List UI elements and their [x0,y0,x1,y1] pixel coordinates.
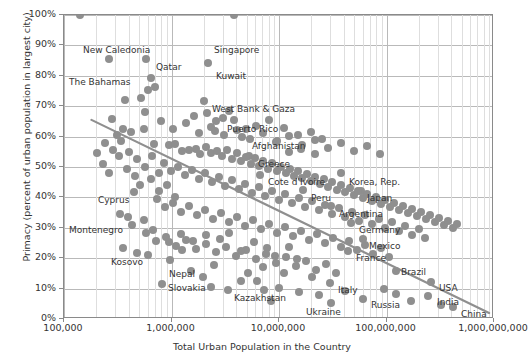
data-label-slovakia: Slovakia [168,283,206,293]
data-label-kuwait: Kuwait [216,71,246,81]
y-tick-mark [59,288,63,289]
data-label-puerto-rico: Puerto Rico [227,124,278,134]
data-label-germany: Germany [359,225,400,235]
x-tick-mark [493,318,494,322]
y-tick-mark [59,14,63,15]
data-label-russia: Russia [371,300,400,310]
y-tick-mark [59,105,63,106]
x-tick-label: 1,000,000 [146,322,194,333]
y-axis-title: Primacy (percent of urban population in … [21,62,32,262]
data-label-cote-d-ivoire: Cote d'Ivoire [268,177,325,187]
data-label-japan: Japan [367,193,392,203]
x-tick-label: 10,000,000 [251,322,305,333]
data-label-singapore: Singapore [214,45,259,55]
y-tick-mark [59,136,63,137]
data-label-kazakhstan: Kazakhstan [234,293,286,303]
data-label-usa: USA [439,283,458,293]
x-tick-mark [171,318,172,322]
data-label-the-bahamas: The Bahamas [69,77,130,87]
y-tick-label: 10% [16,283,56,293]
y-tick-mark [59,75,63,76]
data-label-brazil: Brazil [401,267,426,277]
data-label-india: India [437,297,459,307]
y-tick-mark [59,166,63,167]
x-tick-label: 100,000,000 [355,322,415,333]
x-tick-label: 100,000 [43,322,82,333]
data-label-korea-rep: Korea, Rep. [349,177,400,187]
data-label-france: France [356,253,386,263]
data-label-italy: Italy [338,285,358,295]
data-label-new-caledonia: New Caledonia [83,45,150,55]
data-label-montenegro: Montenegro [69,225,123,235]
data-label-mexico: Mexico [369,241,400,251]
y-tick-mark [59,44,63,45]
data-label-ukraine: Ukraine [306,307,341,317]
x-tick-mark [63,318,64,322]
y-tick-mark [59,257,63,258]
plot-area: New CaledoniaSingaporeQatarKuwaitThe Bah… [63,14,493,318]
x-tick-label: 1,000,000,000 [458,322,528,333]
x-axis-title: Total Urban Population in the Country [0,341,524,352]
data-label-nepal: Nepal [169,269,195,279]
data-label-qatar: Qatar [156,62,181,72]
data-label-kosovo: Kosovo [111,257,143,267]
data-label-peru: Peru [311,193,331,203]
data-label-west-bank-gaza: West Bank & Gaza [212,104,295,114]
y-tick-mark [59,196,63,197]
x-tick-mark [278,318,279,322]
data-label-afghanistan: Afghanistan [252,141,306,151]
x-tick-mark [386,318,387,322]
data-label-greece: Greece [258,159,290,169]
data-label-china: China [461,309,487,318]
data-label-argentina: Argentina [339,209,383,219]
data-label-cyprus: Cyprus [98,195,129,205]
y-tick-mark [59,227,63,228]
